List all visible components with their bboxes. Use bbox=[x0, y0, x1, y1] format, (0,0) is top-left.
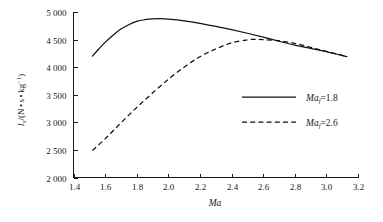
chart-figure: 1.41.61.82.02.22.42.62.83.03.2 2 0002 50… bbox=[0, 0, 383, 222]
x-ticks bbox=[75, 174, 359, 178]
y-axis-unit-close: ) bbox=[16, 74, 26, 77]
y-tick-label: 2 500 bbox=[46, 146, 67, 156]
x-tick-label: 2.6 bbox=[258, 182, 270, 192]
y-tick-label: 3 500 bbox=[46, 91, 67, 101]
y-tick-label: 2 000 bbox=[46, 174, 67, 184]
line-chart-svg: 1.41.61.82.02.22.42.62.83.03.2 2 0002 50… bbox=[0, 0, 383, 222]
x-tick-label: 1.8 bbox=[132, 182, 144, 192]
x-tick-label: 3.2 bbox=[353, 182, 364, 192]
legend-label-1: Maf=2.6 bbox=[305, 118, 338, 129]
y-axis-unit-exponent: −1 bbox=[15, 77, 22, 84]
legend: Maf=1.8 Maf=2.6 bbox=[242, 93, 338, 129]
legend-symbol-0: Ma bbox=[305, 93, 319, 103]
svg-text:Is/(N•s•kg−1): Is/(N•s•kg−1) bbox=[15, 74, 27, 127]
x-tick-labels: 1.41.61.82.02.22.42.62.83.03.2 bbox=[69, 182, 364, 192]
y-axis-dot-1: • bbox=[16, 104, 26, 107]
y-axis-unit-s: s bbox=[16, 98, 26, 102]
legend-label-0: Maf=1.8 bbox=[305, 93, 338, 104]
legend-value-0: =1.8 bbox=[320, 93, 337, 103]
x-tick-label: 2.4 bbox=[227, 182, 239, 192]
y-axis-unit-open: /(N bbox=[16, 108, 26, 120]
y-tick-labels: 2 0002 5003 0003 5004 0004 5005 000 bbox=[46, 8, 67, 184]
legend-value-1: =2.6 bbox=[320, 118, 337, 128]
x-tick-label: 3.0 bbox=[321, 182, 333, 192]
series-line-solid bbox=[92, 19, 346, 57]
x-tick-label: 2.2 bbox=[195, 182, 206, 192]
y-tick-label: 3 000 bbox=[46, 118, 67, 128]
x-tick-label: 1.4 bbox=[69, 182, 81, 192]
y-tick-label: 5 000 bbox=[46, 8, 67, 18]
y-tick-label: 4 500 bbox=[46, 36, 67, 46]
y-tick-label: 4 000 bbox=[46, 63, 67, 73]
y-axis-title: Is/(N•s•kg−1) bbox=[15, 74, 27, 127]
x-tick-label: 2.8 bbox=[290, 182, 302, 192]
y-axis-dot-2: • bbox=[16, 94, 26, 97]
x-tick-label: 2.0 bbox=[163, 182, 175, 192]
x-tick-label: 1.6 bbox=[100, 182, 112, 192]
y-ticks bbox=[74, 13, 78, 179]
x-axis-title: Ma bbox=[208, 198, 222, 208]
legend-symbol-1: Ma bbox=[305, 118, 319, 128]
